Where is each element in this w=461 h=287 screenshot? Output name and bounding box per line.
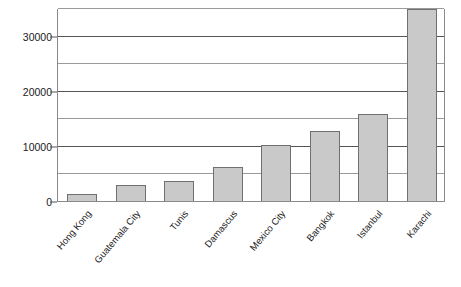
x-axis-tick-label-text: Bangkok — [304, 208, 336, 243]
bar — [358, 114, 388, 202]
x-axis-tick-label-text: Mexico City — [248, 208, 288, 253]
y-axis-tick-mark — [50, 36, 57, 37]
x-axis-tick-label-text: Hong Kong — [55, 208, 94, 251]
bar-chart: 0100002000030000 Hong KongGuatemala City… — [0, 0, 461, 287]
y-axis-tick-mark — [50, 91, 57, 92]
y-axis-tick-label: 10000 — [0, 142, 52, 153]
x-axis-tick-label-text: Tunis — [168, 208, 191, 233]
x-axis-tick-label-text: Damascus — [202, 208, 239, 249]
bar — [407, 9, 437, 202]
x-axis: Hong KongGuatemala CityTunisDamascusMexi… — [0, 202, 461, 287]
bar — [310, 131, 340, 202]
y-axis-tick-mark — [50, 146, 57, 147]
x-axis-tick-label-text: Istanbul — [355, 208, 385, 241]
y-axis-tick-label: 30000 — [0, 31, 52, 42]
y-axis-tick-label: 20000 — [0, 86, 52, 97]
x-axis-tick-label-text: Guatemala City — [92, 208, 143, 265]
x-axis-tick-label-text: Karachi — [404, 208, 433, 240]
bar — [261, 145, 291, 202]
bar — [213, 167, 243, 202]
